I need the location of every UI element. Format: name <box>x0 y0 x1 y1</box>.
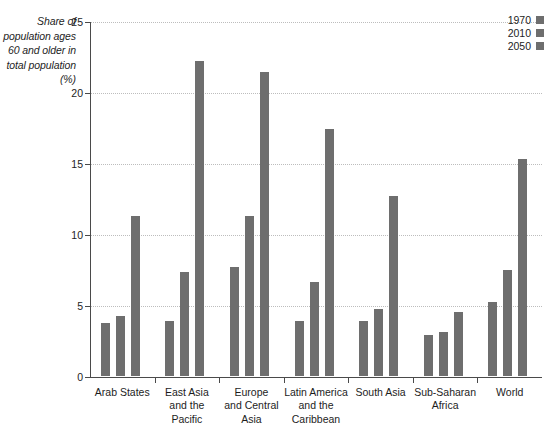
category-separator <box>477 377 478 383</box>
y-tick-label: 10 <box>71 229 83 241</box>
bar <box>195 61 204 376</box>
y-axis-title: Share of population ages 60 and older in… <box>0 14 76 87</box>
bar-group <box>101 21 140 376</box>
bar-group <box>165 21 204 376</box>
bar <box>518 159 527 376</box>
plot-area: 0510152025 Arab StatesEast Asia and the … <box>90 22 542 377</box>
bar <box>131 216 140 376</box>
legend-item: 2050 <box>508 40 544 52</box>
category-separator <box>284 377 285 383</box>
bar <box>374 309 383 376</box>
legend-item: 2010 <box>508 27 544 39</box>
bar <box>180 272 189 376</box>
y-tick-label: 5 <box>77 300 83 312</box>
legend-label: 1970 <box>508 14 531 26</box>
category-label: Europe and Central Asia <box>219 386 284 426</box>
y-tick-mark <box>85 306 90 307</box>
y-tick-mark <box>85 22 90 23</box>
legend-swatch <box>536 42 544 50</box>
bar <box>454 312 463 376</box>
category-label: World <box>477 386 542 399</box>
bar <box>230 267 239 376</box>
legend-label: 2010 <box>508 27 531 39</box>
bar-chart: Share of population ages 60 and older in… <box>0 0 552 428</box>
y-tick-label: 25 <box>71 16 83 28</box>
bar-group <box>295 21 334 376</box>
y-tick-label: 15 <box>71 158 83 170</box>
bar <box>488 302 497 376</box>
bar <box>245 216 254 376</box>
bar-group <box>230 21 269 376</box>
category-separator <box>413 377 414 383</box>
bar <box>101 323 110 376</box>
bar-group <box>359 21 398 376</box>
bar <box>325 129 334 376</box>
bar <box>165 321 174 376</box>
bar <box>503 270 512 377</box>
bar <box>116 316 125 376</box>
y-tick-mark <box>85 235 90 236</box>
y-tick-label: 0 <box>77 371 83 383</box>
legend-swatch <box>536 16 544 24</box>
category-separator <box>219 377 220 383</box>
bar <box>295 321 304 376</box>
category-label: South Asia <box>348 386 413 399</box>
y-tick-mark <box>85 164 90 165</box>
bar <box>439 332 448 376</box>
bar <box>424 335 433 376</box>
chart-legend: 197020102050 <box>508 14 544 52</box>
bar <box>359 321 368 376</box>
category-label: Latin America and the Caribbean <box>284 386 349 426</box>
bar <box>260 72 269 376</box>
category-label: Arab States <box>90 386 155 399</box>
y-tick-mark <box>85 377 90 378</box>
legend-label: 2050 <box>508 40 531 52</box>
y-tick-mark <box>85 93 90 94</box>
bar-group <box>424 21 463 376</box>
category-label: Sub-Saharan Africa <box>413 386 478 413</box>
category-separator <box>155 377 156 383</box>
y-axis-line <box>90 22 91 378</box>
bar <box>310 282 319 376</box>
legend-item: 1970 <box>508 14 544 26</box>
category-label: East Asia and the Pacific <box>155 386 220 426</box>
y-tick-label: 20 <box>71 87 83 99</box>
legend-swatch <box>536 29 544 37</box>
bar-group <box>488 21 527 376</box>
category-separator <box>348 377 349 383</box>
bar <box>389 196 398 376</box>
x-axis-line <box>90 377 542 378</box>
